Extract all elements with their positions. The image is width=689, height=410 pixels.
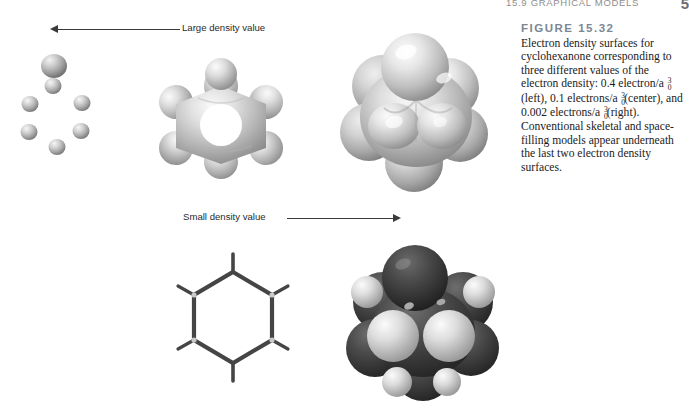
skeletal-vertices <box>191 292 274 342</box>
sphere-carbon-3 <box>74 95 91 111</box>
space-filling-model-panel <box>345 240 505 408</box>
blob-top-lobe <box>381 33 449 101</box>
figure-page: 15.9 GRAPHICAL MODELS 5 Large density va… <box>0 0 689 410</box>
cpk-hydrogen-3 <box>367 310 419 362</box>
arrow-line-large <box>56 29 180 30</box>
star-surface-body <box>153 58 289 179</box>
blob-surface-body <box>340 33 488 192</box>
skeletal-model-graphic <box>168 248 298 388</box>
arrow-line-small <box>287 218 395 219</box>
sphere-carbon-5 <box>73 123 90 139</box>
density-surface-high-panel <box>8 46 130 174</box>
cpk-hydrogen-1 <box>351 276 383 308</box>
bohr-radius-unit: a003 <box>659 77 668 91</box>
bohr-radius-unit: a003 <box>612 92 621 106</box>
star-surface-hole <box>200 104 242 146</box>
star-surface-top-knob <box>205 58 237 90</box>
space-filling-model-graphic <box>345 240 505 408</box>
sphere-carbon-6 <box>49 139 66 155</box>
density-surface-low-panel <box>336 22 496 192</box>
density-surface-low-graphic <box>336 22 496 192</box>
annotation-small-density-label: Small density value <box>183 211 266 222</box>
running-head-section: 15.9 GRAPHICAL MODELS <box>506 0 639 8</box>
figure-label: FIGURE 15.32 <box>521 22 689 34</box>
running-head: 15.9 GRAPHICAL MODELS 5 <box>498 0 689 9</box>
skeletal-model-panel <box>168 248 298 388</box>
annotation-small-density: Small density value <box>183 211 413 227</box>
arrow-head-right-icon <box>393 214 401 222</box>
figure-caption-text: Electron density surfaces for cyclohexan… <box>521 37 689 174</box>
sphere-carbon-4 <box>21 124 38 140</box>
annotation-large-density-label: Large density value <box>182 22 265 33</box>
density-surface-medium-graphic <box>148 42 294 182</box>
skeletal-bonds <box>178 254 288 381</box>
density-surface-medium-panel <box>148 42 294 182</box>
annotation-large-density: Large density value <box>50 22 350 38</box>
cpk-hydrogen-2 <box>463 276 495 308</box>
bohr-radius-unit: a003 <box>595 106 604 120</box>
cpk-hydrogen-4 <box>423 310 475 362</box>
sphere-oxygen <box>41 54 67 78</box>
running-head-page-number: 5 <box>681 0 689 9</box>
sphere-carbon-2 <box>22 96 39 112</box>
figure-caption-block: FIGURE 15.32 Electron density surfaces f… <box>521 22 689 174</box>
sphere-carbon-1 <box>45 78 62 94</box>
density-surface-high-graphic <box>8 46 130 174</box>
cpk-hydrogen-5 <box>382 367 412 397</box>
cpk-hydrogen-6 <box>433 368 461 396</box>
